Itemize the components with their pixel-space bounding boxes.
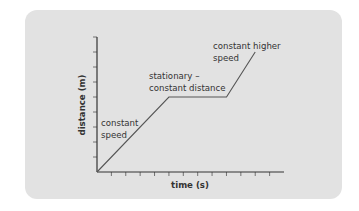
x-axis-label: time (s) bbox=[171, 180, 209, 190]
y-axis-label: distance (m) bbox=[77, 74, 87, 135]
distance-time-chart: constant speed stationary – constant dis… bbox=[0, 0, 359, 211]
data-line bbox=[97, 52, 255, 172]
annotation-stationary-line1: stationary – bbox=[149, 71, 200, 81]
axis-ticks bbox=[93, 37, 270, 176]
annotation-constant-speed-line2: speed bbox=[101, 130, 127, 140]
annotation-higher-speed-line2: speed bbox=[213, 53, 239, 63]
annotation-constant-speed-line1: constant bbox=[101, 118, 139, 128]
annotation-higher-speed-line1: constant higher bbox=[213, 41, 281, 51]
annotation-stationary-line2: constant distance bbox=[149, 83, 226, 93]
